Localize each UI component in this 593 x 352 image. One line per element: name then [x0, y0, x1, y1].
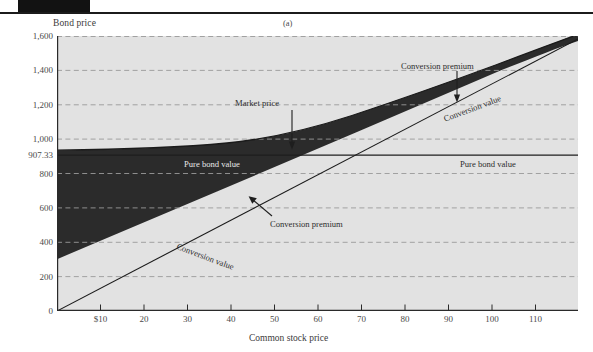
annotation-market-price: Market price: [235, 98, 279, 108]
x-axis-tick-labels: $10 20 30 40 50 60 70 80 90 100 110: [57, 314, 578, 330]
x-tick-40: 40: [227, 314, 236, 324]
y-tick-90733: 907.33: [1, 150, 53, 160]
x-tick-50: 50: [270, 314, 279, 324]
annotation-pure-bond-value-left: Pure bond value: [184, 159, 240, 169]
annotation-pure-bond-value-right: Pure bond value: [460, 159, 516, 169]
x-tick-90: 90: [444, 314, 453, 324]
x-tick-60: 60: [314, 314, 323, 324]
y-tick-1000: 1,000: [1, 134, 53, 144]
market-price-arrow: [289, 110, 295, 150]
x-tick-100: 100: [485, 314, 499, 324]
annotation-conversion-premium-high: Conversion premium: [401, 61, 474, 71]
panel-label: (a): [283, 18, 292, 28]
y-tick-1600: 1,600: [1, 31, 53, 41]
x-tick-10: $10: [94, 314, 108, 324]
y-tick-1400: 1,400: [1, 65, 53, 75]
y-tick-400: 400: [1, 237, 53, 247]
y-axis-title: Bond price: [53, 18, 96, 28]
x-axis-title: Common stock price: [249, 333, 328, 343]
x-tick-110: 110: [529, 314, 542, 324]
x-tick-20: 20: [140, 314, 149, 324]
annotation-conversion-premium-low: Conversion premium: [270, 219, 343, 229]
y-axis-tick-labels: 1,600 1,400 1,200 1,000 907.33 800 600 4…: [0, 36, 53, 311]
y-tick-800: 800: [1, 169, 53, 179]
x-tick-70: 70: [357, 314, 366, 324]
plot-area: Market price Pure bond value Pure bond v…: [57, 36, 578, 311]
convertible-bond-value-figure: Bond price (a) Common stock price 1,600 …: [0, 0, 593, 352]
y-tick-200: 200: [1, 272, 53, 282]
plot-graphic: [57, 36, 578, 311]
y-tick-600: 600: [1, 203, 53, 213]
x-tick-30: 30: [183, 314, 192, 324]
y-tick-0: 0: [1, 306, 53, 316]
x-tick-80: 80: [401, 314, 410, 324]
y-tick-1200: 1,200: [1, 100, 53, 110]
header-rule: [0, 12, 593, 14]
conversion-premium-arrow-lower: [249, 196, 272, 216]
